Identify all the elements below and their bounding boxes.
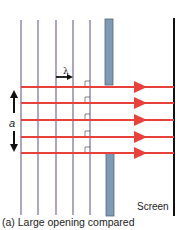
right-angle-marks <box>85 81 90 153</box>
wavefronts <box>21 20 90 215</box>
wavelength-label: λ <box>63 66 69 76</box>
diffraction-diagram <box>0 0 187 230</box>
rays <box>21 81 174 159</box>
barrier-bottom <box>106 153 114 216</box>
barrier-top <box>105 19 113 85</box>
aperture-label: a <box>9 117 15 129</box>
figure-caption: (a) Large opening compared <box>2 216 135 228</box>
barrier <box>105 19 114 216</box>
screen-label: Screen <box>137 201 169 212</box>
